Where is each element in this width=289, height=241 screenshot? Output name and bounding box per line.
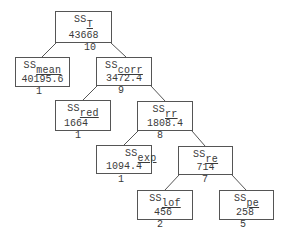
node-value: 1808.4 (138, 118, 192, 129)
node-ss-rr: SSrr 1808.4 (137, 101, 193, 131)
node-label: SScorr (97, 60, 151, 71)
node-df: 7 (190, 174, 220, 185)
node-ss-total: SST 43668 (55, 11, 112, 43)
node-label: SSexp (97, 148, 151, 159)
edge-T-corr (111, 43, 126, 57)
node-value: 456 (138, 207, 192, 218)
node-ss-red: SSred 1664 (55, 100, 111, 131)
node-label: SSrr (138, 104, 192, 115)
node-ss-re: SSre 714 (178, 146, 233, 175)
edge-T-mean (42, 43, 56, 57)
node-label: SSre (179, 149, 232, 160)
node-ss-exp: SSexp 1094.4 (96, 145, 152, 174)
edge-re-lof (165, 175, 179, 190)
node-label: SST (56, 14, 111, 25)
node-ss-mean: SSmean 40195.6 (15, 57, 70, 87)
node-ss-lof: SSlof 456 (137, 190, 193, 220)
node-label: SSpe (220, 193, 273, 204)
node-value: 1664 (56, 118, 110, 129)
node-df: 8 (145, 130, 175, 141)
edge-rr-exp (124, 131, 138, 145)
node-value: 3472.4 (97, 73, 151, 84)
node-value: 1094.4 (97, 161, 151, 172)
edge-corr-rr (151, 86, 165, 101)
node-value: 40195.6 (16, 74, 69, 85)
node-df: 2 (145, 219, 175, 230)
edge-corr-red (83, 86, 97, 100)
node-value: 258 (220, 207, 273, 218)
edge-rr-re (192, 131, 205, 146)
node-label: SSred (56, 103, 110, 114)
node-df: 10 (75, 42, 105, 53)
node-value: 714 (179, 162, 232, 173)
node-label: SSmean (16, 60, 69, 71)
node-value: 43668 (56, 30, 111, 41)
edge-re-pe (232, 175, 246, 190)
node-ss-pe: SSpe 258 (219, 190, 274, 220)
node-ss-corr: SScorr 3472.4 (96, 57, 152, 86)
node-df: 1 (24, 86, 54, 97)
node-df: 9 (106, 85, 136, 96)
node-label: SSlof (138, 193, 192, 204)
node-df: 1 (63, 130, 93, 141)
node-df: 1 (106, 174, 136, 185)
node-df: 5 (228, 219, 258, 230)
